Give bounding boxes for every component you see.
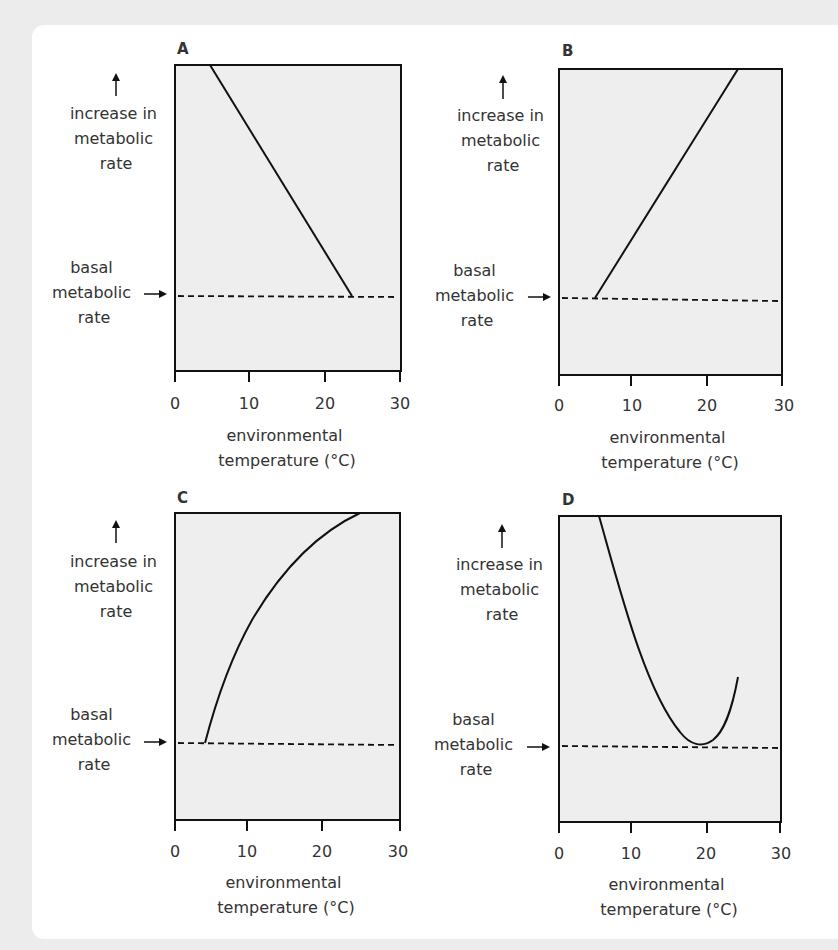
svg-text:0: 0 [170, 842, 180, 861]
x-axis-label: environmental temperature (°C) [217, 873, 354, 917]
x-tick-labels: 0 10 20 30 [170, 842, 408, 861]
plot-area [175, 513, 400, 820]
chart-d: D increase in metabolic rate basal metab… [420, 470, 838, 950]
panel-a: A increase in metabolic rate basal metab… [0, 0, 410, 460]
svg-text:10: 10 [622, 396, 642, 415]
basal-arrow-icon [144, 290, 167, 298]
svg-text:20: 20 [697, 396, 717, 415]
svg-text:10: 10 [621, 844, 641, 863]
panel-b: B increase in metabolic rate basal metab… [420, 0, 830, 460]
y-axis-arrow-icon [112, 73, 120, 96]
x-ticks [559, 822, 780, 833]
x-ticks [175, 371, 400, 382]
svg-text:0: 0 [554, 844, 564, 863]
y-axis-arrow-icon [498, 524, 506, 548]
plot-area [559, 516, 781, 822]
x-axis-label: environmental temperature (°C) [218, 426, 355, 470]
x-ticks [175, 820, 400, 831]
x-tick-labels: 0 10 20 30 [554, 396, 794, 415]
y-axis-label: increase in metabolic rate [456, 555, 548, 624]
svg-text:30: 30 [774, 396, 794, 415]
panel-label: A [177, 40, 189, 58]
chart-c: C increase in metabolic rate basal metab… [0, 470, 420, 950]
svg-text:10: 10 [237, 842, 257, 861]
svg-text:30: 30 [388, 842, 408, 861]
x-axis-label: environmental temperature (°C) [601, 428, 738, 472]
basal-arrow-icon [527, 743, 550, 751]
basal-arrow-icon [528, 293, 551, 301]
chart-b: B increase in metabolic rate basal metab… [420, 0, 838, 475]
x-ticks [559, 375, 782, 386]
svg-text:20: 20 [315, 394, 335, 413]
panel-label: D [562, 491, 574, 509]
chart-a: A increase in metabolic rate basal metab… [0, 0, 420, 475]
y-axis-arrow-icon [112, 520, 120, 543]
svg-text:0: 0 [170, 394, 180, 413]
svg-text:30: 30 [771, 844, 791, 863]
basal-label: basal metabolic rate [52, 258, 136, 327]
y-axis-label: increase in metabolic rate [70, 552, 162, 621]
panel-c: C increase in metabolic rate basal metab… [0, 470, 410, 930]
basal-label: basal metabolic rate [435, 261, 519, 330]
plot-area [175, 65, 401, 371]
basal-label: basal metabolic rate [434, 710, 518, 779]
panel-label: B [562, 42, 573, 60]
svg-text:0: 0 [554, 396, 564, 415]
basal-label: basal metabolic rate [52, 705, 136, 774]
basal-arrow-icon [144, 738, 167, 746]
svg-text:10: 10 [239, 394, 259, 413]
x-tick-labels: 0 10 20 30 [554, 844, 791, 863]
panel-label: C [177, 489, 188, 507]
plot-area [559, 69, 782, 375]
svg-text:20: 20 [312, 842, 332, 861]
y-axis-label: increase in metabolic rate [457, 106, 549, 175]
svg-text:30: 30 [390, 394, 410, 413]
x-tick-labels: 0 10 20 30 [170, 394, 410, 413]
y-axis-arrow-icon [499, 75, 507, 99]
y-axis-label: increase in metabolic rate [70, 104, 162, 173]
panel-d: D increase in metabolic rate basal metab… [420, 470, 830, 930]
x-axis-label: environmental temperature (°C) [600, 875, 737, 919]
svg-text:20: 20 [696, 844, 716, 863]
